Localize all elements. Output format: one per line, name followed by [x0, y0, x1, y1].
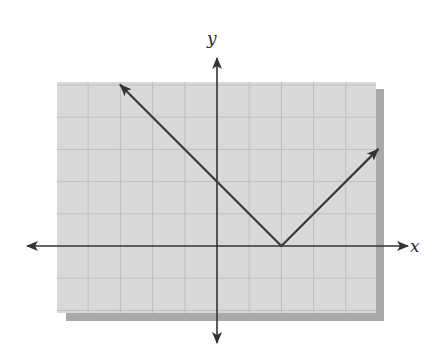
y-axis-label: y [206, 28, 217, 48]
graph-figure: y x [0, 0, 434, 353]
x-axis-label: x [410, 236, 420, 256]
